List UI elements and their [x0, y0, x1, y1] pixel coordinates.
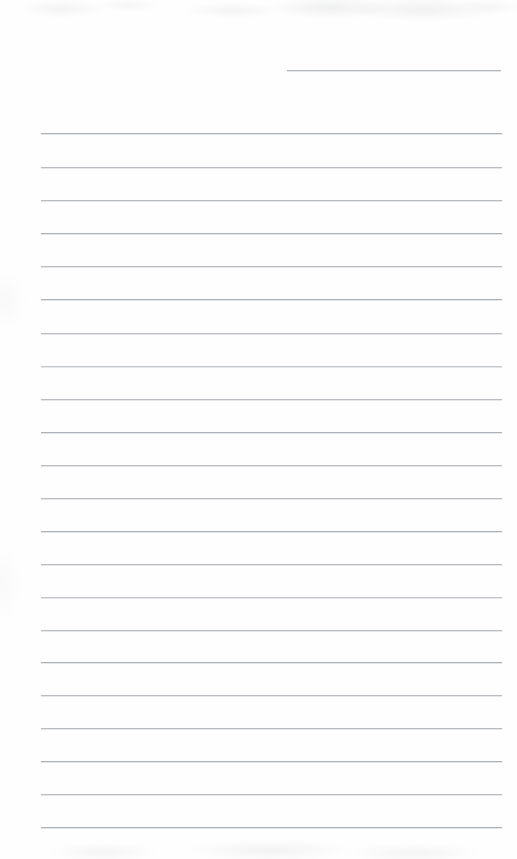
- scanned-page: [0, 0, 517, 859]
- header-rule: [287, 70, 501, 71]
- writing-area[interactable]: [41, 100, 502, 840]
